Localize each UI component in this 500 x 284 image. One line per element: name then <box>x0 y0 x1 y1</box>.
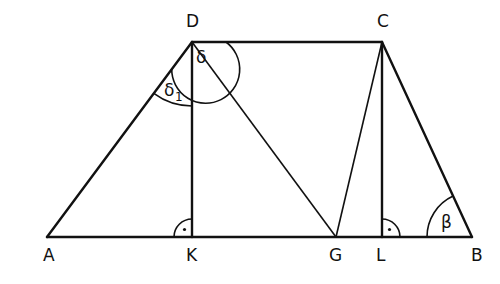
right-angle-k-dot <box>183 228 186 231</box>
angle-delta1-subscript: 1 <box>175 90 183 104</box>
point-label-b: B <box>471 245 483 265</box>
point-label-k: K <box>186 245 198 265</box>
angle-beta-label: β <box>441 212 452 232</box>
angle-delta-label: δ <box>196 47 206 67</box>
right-angle-l-dot <box>388 228 391 231</box>
point-label-g: G <box>329 245 342 265</box>
point-label-c: C <box>377 11 389 31</box>
right-angle-l-arc <box>382 219 400 237</box>
trapezoid-diagram: δ δ 1 β D C A K G L B <box>0 0 500 284</box>
segment-cg <box>336 42 382 237</box>
point-label-a: A <box>43 245 55 265</box>
angle-delta1-label: δ <box>164 80 174 100</box>
segment-da <box>47 42 192 237</box>
segment-bc <box>382 42 472 237</box>
right-angle-k-arc <box>174 219 192 237</box>
point-label-l: L <box>376 245 386 265</box>
point-label-d: D <box>186 11 199 31</box>
segment-dg <box>192 42 336 237</box>
